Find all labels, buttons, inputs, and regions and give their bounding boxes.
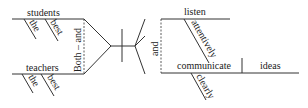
subject-bottom-word: teachers [26,62,59,73]
predicate-bottom-word: communicate [177,60,231,71]
subject-top-word: students [27,7,60,18]
subject-fork-top [84,19,111,46]
modifier-best-top: best [48,17,66,37]
predicate-fork-top [135,19,145,46]
modifier-best-bottom: best [45,72,63,92]
predicate-conjunction: and [149,42,160,56]
object-ideas: ideas [260,60,281,71]
predicate-fork-bottom [135,46,145,74]
predicate-bottom: communicate ideas clearly [161,58,299,101]
predicate-top: listen attentively [161,6,230,63]
modifier-the-top: the [27,17,43,34]
subject-conjunction: Both – and [72,28,83,72]
predicate-top-word: listen [184,6,206,17]
sentence-diagram: students the best teachers the best Both… [0,0,308,108]
modifier-attentively: attentively [189,18,220,60]
subject-fork-bottom [84,46,111,74]
